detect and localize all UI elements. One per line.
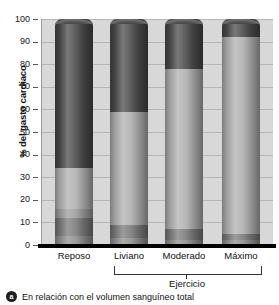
bar-segment	[110, 225, 148, 239]
y-tick-mark-20	[33, 200, 38, 201]
bar-liviano	[110, 19, 148, 245]
footnote: a En relación con el volumen sanguíneo t…	[6, 291, 194, 302]
y-tick-mark-100	[33, 19, 38, 20]
y-tick-mark-10	[33, 222, 38, 223]
x-axis-baseline	[38, 244, 276, 248]
y-tick-label-50: 50	[0, 128, 30, 137]
bar-segment	[110, 19, 148, 112]
bar-reposo	[55, 19, 93, 245]
y-tick-label-0: 0	[0, 241, 30, 250]
y-tick-label-30: 30	[0, 173, 30, 182]
bar-segment	[55, 218, 93, 236]
bar-segment	[55, 209, 93, 218]
exercise-bracket-label: Ejercicio	[147, 278, 227, 289]
y-tick-label-70: 70	[0, 82, 30, 91]
y-tick-label-90: 90	[0, 37, 30, 46]
exercise-bracket	[114, 266, 262, 275]
y-tick-mark-60	[33, 109, 38, 110]
bar-segment	[222, 37, 260, 234]
bar-máximo	[222, 19, 260, 245]
bar-segment	[222, 19, 260, 37]
y-axis-line	[41, 19, 42, 245]
y-tick-mark-90	[33, 42, 38, 43]
bar-segment	[165, 19, 203, 69]
y-tick-label-20: 20	[0, 195, 30, 204]
bar-segment	[55, 168, 93, 209]
y-tick-mark-30	[33, 177, 38, 178]
y-tick-label-100: 100	[0, 15, 30, 24]
y-tick-mark-80	[33, 64, 38, 65]
y-tick-label-40: 40	[0, 150, 30, 159]
y-tick-label-60: 60	[0, 105, 30, 114]
chart-figure: % del gasto cardiaco 1009080706050403020…	[0, 0, 279, 305]
bar-segment	[110, 112, 148, 225]
bar-segment	[165, 229, 203, 240]
footnote-text: En relación con el volumen sanguíneo tot…	[22, 292, 194, 302]
plot-area	[41, 19, 273, 245]
y-tick-mark-70	[33, 87, 38, 88]
bar-segment	[55, 19, 93, 168]
bar-segment	[222, 234, 260, 241]
category-label-máximo: Máximo	[201, 250, 279, 261]
y-tick-label-10: 10	[0, 218, 30, 227]
y-tick-mark-50	[33, 132, 38, 133]
y-tick-label-80: 80	[0, 60, 30, 69]
bar-moderado	[165, 19, 203, 245]
footnote-badge-icon: a	[6, 291, 17, 302]
y-axis-ticks: 1009080706050403020100	[0, 19, 38, 245]
y-tick-mark-40	[33, 155, 38, 156]
bar-segment	[165, 69, 203, 229]
